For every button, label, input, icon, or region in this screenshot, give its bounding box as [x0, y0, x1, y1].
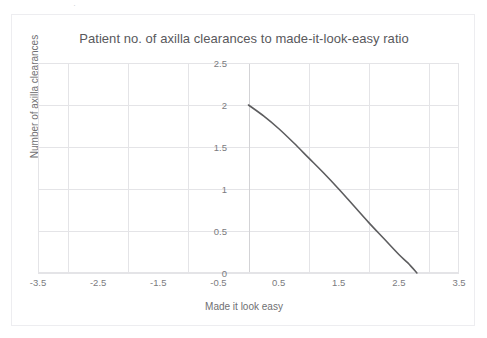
y-tick-label: 2.5 [214, 58, 227, 69]
y-axis-tick-labels: 00.511.522.5 [193, 63, 227, 273]
y-tick-label: 1 [222, 184, 227, 195]
chart-frame: Patient no. of axilla clearances to made… [11, 14, 475, 326]
x-tick-label: 1.5 [332, 277, 345, 288]
x-tick-label: 3.5 [452, 277, 465, 288]
y-tick-label: 1.5 [214, 142, 227, 153]
x-tick-label: -0.5 [210, 277, 226, 288]
scan-artifact: · [73, 1, 82, 9]
x-axis-tick-labels: -3.5-2.5-1.5-0.50.51.52.53.5 [38, 277, 459, 291]
x-tick-label: -3.5 [30, 277, 46, 288]
y-tick-label: 2 [222, 100, 227, 111]
x-tick-label: -2.5 [90, 277, 106, 288]
chart-title: Patient no. of axilla clearances to made… [12, 31, 476, 46]
plot-area [38, 63, 459, 273]
y-tick-label: 0.5 [214, 226, 227, 237]
x-tick-label: 2.5 [392, 277, 405, 288]
x-tick-label: -1.5 [150, 277, 166, 288]
x-axis-title: Made it look easy [12, 301, 476, 312]
x-tick-label: 0.5 [272, 277, 285, 288]
series-path-axilla-clearance-ratio [249, 105, 417, 273]
gridline-horizontal [38, 273, 459, 274]
series-line [38, 63, 459, 273]
